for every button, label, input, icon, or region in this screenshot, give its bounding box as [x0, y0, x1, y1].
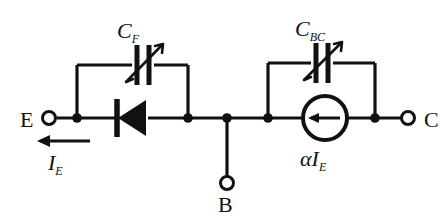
collector-terminal-label: C: [424, 107, 439, 132]
ie-arrow-head: [37, 135, 50, 147]
junction-dot-cf-right-node: [183, 113, 193, 123]
capacitor-cbc-label: CBC: [295, 16, 326, 44]
dependent-current-source-icon: [303, 96, 347, 140]
capacitor-cbc-label-sub: BC: [310, 30, 326, 44]
junction-dot-emitter-node: [72, 113, 82, 123]
dependent-source-label-main: αI: [300, 146, 321, 171]
junction-dot-cbc-left-node: [263, 113, 273, 123]
dependent-source-label-sub: E: [318, 160, 327, 174]
diode-triangle: [118, 100, 146, 136]
junction-dot-collector-node: [370, 113, 380, 123]
base-terminal-label: B: [218, 192, 233, 217]
base-lead-group: [221, 118, 234, 190]
diode-icon: [117, 99, 146, 137]
cf-variability-arrow-shaft: [126, 44, 163, 82]
circuit-schematic: E B C CF CBC αIE IE: [0, 0, 446, 221]
emitter-current-arrow-icon: [37, 135, 90, 147]
circuit-diagram-canvas: E B C CF CBC αIE IE: [0, 0, 446, 221]
capacitor-cbc-label-main: C: [295, 16, 310, 41]
emitter-terminal-label: E: [20, 107, 33, 132]
emitter-current-label-sub: E: [54, 164, 63, 178]
capacitor-cf-label-main: C: [117, 18, 132, 43]
emitter-current-label: IE: [47, 150, 63, 178]
dependent-source-label: αIE: [300, 146, 327, 174]
capacitor-cf-label: CF: [117, 18, 140, 46]
cbc-variability-arrow-shaft: [304, 42, 342, 80]
base-terminal-circle[interactable]: [221, 177, 234, 190]
emitter-terminal-circle[interactable]: [43, 112, 56, 125]
capacitor-cf-label-sub: F: [131, 32, 140, 46]
collector-terminal-circle[interactable]: [402, 112, 415, 125]
junction-dot-base-node: [222, 113, 232, 123]
